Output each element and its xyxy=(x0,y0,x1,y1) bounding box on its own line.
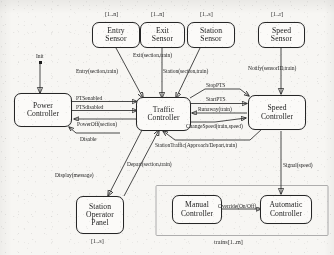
edge-label-start-pts: StartPTS xyxy=(206,96,225,102)
edge-label-entry: Entry(section,train) xyxy=(76,68,118,74)
edge-label-station-traffic: StationTraffic(Approach/Depart,train) xyxy=(155,142,237,148)
node-traffic-controller[interactable]: Traffic Controller xyxy=(136,97,191,131)
edge-label-runaway: Runaway(train) xyxy=(198,106,232,112)
edge-label-init: Init xyxy=(36,53,43,59)
mult-operator-panel: [1..s] xyxy=(91,237,104,244)
edge-label-notify: Notify(sensorID,train) xyxy=(248,65,296,71)
node-manual-controller-line2: Controller xyxy=(181,210,213,218)
node-power-controller-line2: Controller xyxy=(27,110,59,118)
node-operator-panel-line3: Panel xyxy=(91,219,108,227)
edge-label-pts-enabled: PTSenabled xyxy=(76,95,102,101)
edge-label-signal: Signal(speed) xyxy=(283,162,313,168)
node-exit-sensor-line2: Sensor xyxy=(152,35,173,43)
node-station-sensor[interactable]: Station Sensor xyxy=(187,22,235,48)
edge-label-override: Override(On/Off) xyxy=(218,203,256,209)
node-speed-controller[interactable]: Speed Controller xyxy=(248,95,306,130)
node-manual-controller[interactable]: Manual Controller xyxy=(172,195,222,224)
node-entry-sensor-line2: Sensor xyxy=(105,35,126,43)
edge-label-pts-disabled: PTSdisabled xyxy=(76,104,103,110)
node-entry-sensor[interactable]: Entry Sensor xyxy=(92,22,140,48)
init-start-marker xyxy=(39,61,42,64)
diagram-canvas: Entry Sensor [1..n] Exit Sensor [1..n] S… xyxy=(0,0,334,255)
node-power-controller[interactable]: Power Controller xyxy=(14,93,72,127)
node-traffic-controller-line2: Controller xyxy=(147,114,179,122)
node-speed-controller-line2: Controller xyxy=(261,113,293,121)
mult-entry-sensor: [1..n] xyxy=(105,10,118,17)
mult-speed-sensor: [1..r] xyxy=(271,10,283,17)
edge-label-station: Station(section,train) xyxy=(163,68,208,74)
edge-label-depart: Depart(section,train) xyxy=(127,161,172,167)
node-automatic-controller-line2: Controller xyxy=(270,210,302,218)
group-label-trains: trains[1..m] xyxy=(214,238,243,245)
mult-station-sensor: [1..s] xyxy=(200,10,213,17)
node-exit-sensor[interactable]: Exit Sensor xyxy=(140,22,185,48)
node-speed-sensor[interactable]: Speed Sensor xyxy=(258,22,305,48)
edge-label-change-speed: ChangeSpeed(train,speed) xyxy=(186,123,243,129)
edge-label-disable: Disable xyxy=(80,136,96,142)
edge-label-stop-pts: StopPTS xyxy=(206,82,225,88)
edge-label-exit: Exit(section,train) xyxy=(133,52,172,58)
node-speed-sensor-line2: Sensor xyxy=(271,35,292,43)
mult-exit-sensor: [1..n] xyxy=(151,10,164,17)
node-station-sensor-line2: Sensor xyxy=(200,35,221,43)
node-automatic-controller[interactable]: Automatic Controller xyxy=(260,195,312,224)
edge-label-display: Display(message) xyxy=(55,172,94,178)
edge-label-power-off: PowerOff(section) xyxy=(77,121,117,127)
node-operator-panel[interactable]: Station Operator Panel xyxy=(76,196,124,234)
